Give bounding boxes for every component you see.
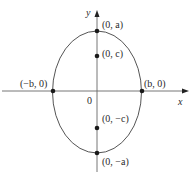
label-bottom-focus: (0, −c) — [102, 113, 129, 125]
ellipse-diagram: y x 0 (0, a) (0, c) (−b, 0) (b, 0) (0, −… — [0, 0, 193, 182]
label-top-vertex: (0, a) — [102, 19, 123, 31]
point-top-vertex — [95, 29, 100, 34]
point-right-covertex — [140, 89, 145, 94]
label-right-covertex: (b, 0) — [144, 78, 166, 90]
point-left-covertex — [51, 89, 56, 94]
y-axis-label: y — [85, 7, 91, 18]
origin-label: 0 — [87, 95, 92, 106]
label-left-covertex: (−b, 0) — [20, 78, 47, 90]
point-bottom-focus — [95, 126, 100, 131]
x-axis-arrow-icon — [182, 89, 189, 94]
label-top-focus: (0, c) — [102, 48, 123, 60]
y-axis-arrow-icon — [95, 10, 100, 17]
x-axis-label: x — [177, 96, 183, 107]
point-top-focus — [95, 54, 100, 59]
label-bottom-vertex: (0, −a) — [102, 156, 129, 168]
point-bottom-vertex — [95, 151, 100, 156]
